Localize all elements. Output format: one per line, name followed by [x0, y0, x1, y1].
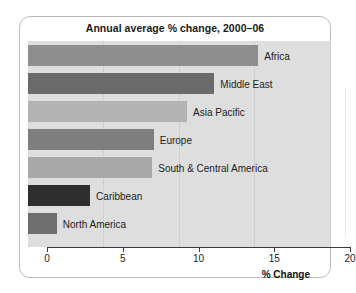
bar-label: Middle East: [220, 78, 272, 89]
bar[interactable]: [28, 45, 258, 66]
x-axis-tick: [47, 247, 48, 252]
x-axis-tick: [350, 247, 351, 252]
bar-row[interactable]: Middle East: [28, 73, 331, 94]
bar-label: Asia Pacific: [193, 106, 245, 117]
bar-row[interactable]: Caribbean: [28, 185, 331, 206]
bar-row[interactable]: Africa: [28, 45, 331, 66]
bar-row[interactable]: Europe: [28, 129, 331, 150]
x-axis-title: % Change: [262, 269, 310, 280]
chart-title: Annual average % change, 2000–06: [20, 22, 330, 34]
bar[interactable]: [28, 213, 57, 234]
bar-label: South & Central America: [158, 162, 268, 173]
bar[interactable]: [28, 101, 187, 122]
chart-card: Annual average % change, 2000–06 AfricaM…: [19, 16, 331, 278]
bar-row[interactable]: Asia Pacific: [28, 101, 331, 122]
bar-label: Europe: [160, 134, 192, 145]
x-axis-tick-label: 20: [344, 253, 355, 264]
bar-label: Africa: [264, 50, 290, 61]
page-edge-artifact: [345, 88, 346, 238]
bar-row[interactable]: South & Central America: [28, 157, 331, 178]
bar[interactable]: [28, 129, 154, 150]
bar[interactable]: [28, 73, 214, 94]
x-axis-tick: [199, 247, 200, 252]
bar-row[interactable]: North America: [28, 213, 331, 234]
bar[interactable]: [28, 185, 90, 206]
x-axis-tick-label: 5: [120, 253, 126, 264]
x-axis-tick: [123, 247, 124, 252]
x-axis-tick-label: 0: [44, 253, 50, 264]
x-axis-tick-label: 10: [193, 253, 204, 264]
x-axis-tick-label: 15: [269, 253, 280, 264]
bar-label: Caribbean: [96, 190, 142, 201]
bar[interactable]: [28, 157, 152, 178]
x-axis-tick: [274, 247, 275, 252]
plot-area: AfricaMiddle EastAsia PacificEuropeSouth…: [28, 41, 331, 247]
bar-label: North America: [63, 218, 126, 229]
